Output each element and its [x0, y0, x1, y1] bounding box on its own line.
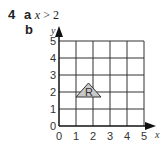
- svg-text:3: 3: [107, 130, 113, 142]
- svg-text:5: 5: [141, 130, 147, 142]
- x-axis-label: x: [154, 129, 160, 140]
- svg-text:2: 2: [90, 130, 96, 142]
- grid-lines: [59, 41, 144, 126]
- svg-text:0: 0: [56, 130, 62, 142]
- coordinate-grid: R y x 0 1 2 3 4 5 0 1 2 3 4 5: [0, 0, 164, 145]
- y-tick-labels: 0 1 2 3 4 5: [50, 35, 56, 132]
- svg-text:1: 1: [73, 130, 79, 142]
- svg-text:1: 1: [50, 103, 56, 115]
- svg-text:4: 4: [50, 52, 56, 64]
- y-arrow-icon: [55, 26, 63, 37]
- svg-text:3: 3: [50, 69, 56, 81]
- svg-text:5: 5: [50, 35, 56, 47]
- x-tick-labels: 0 1 2 3 4 5: [56, 130, 147, 142]
- axes: [59, 30, 152, 126]
- svg-text:2: 2: [50, 86, 56, 98]
- svg-text:4: 4: [124, 130, 130, 142]
- region-label: R: [85, 86, 93, 98]
